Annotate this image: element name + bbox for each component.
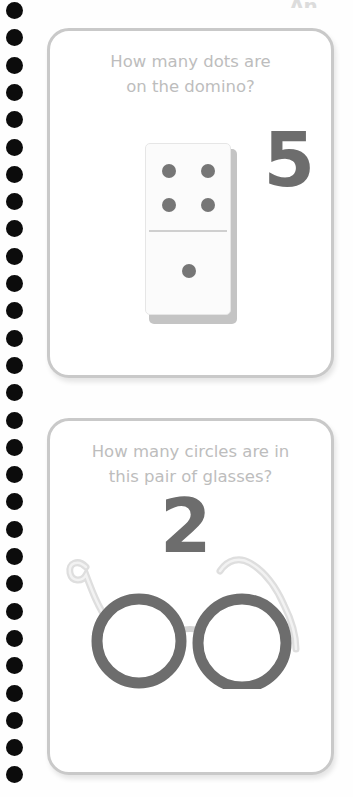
- binding-hole: [6, 575, 23, 592]
- binding-hole: [6, 220, 23, 237]
- binding-hole: [6, 521, 23, 538]
- glasses-lens-left: [97, 599, 181, 683]
- domino-pip: [182, 264, 196, 278]
- binding-hole: [6, 466, 23, 483]
- domino-pip: [162, 164, 176, 178]
- binding-hole: [6, 275, 23, 292]
- worksheet-page: An How many dots are on the domino? 5 Ho…: [0, 0, 353, 797]
- binding-hole: [6, 330, 23, 347]
- binding-hole: [6, 2, 23, 19]
- question-text-domino: How many dots are on the domino?: [64, 49, 317, 99]
- binding-hole: [6, 493, 23, 510]
- top-edge-mark: An: [289, 0, 345, 8]
- binding-hole: [6, 111, 23, 128]
- question-line-1: How many circles are in: [64, 439, 317, 464]
- question-text-glasses: How many circles are in this pair of gla…: [64, 439, 317, 489]
- binding-hole: [6, 766, 23, 783]
- question-line-1: How many dots are: [64, 49, 317, 74]
- binding-hole: [6, 685, 23, 702]
- domino-pip: [201, 164, 215, 178]
- binding-hole: [6, 739, 23, 756]
- binding-hole: [6, 712, 23, 729]
- binding-hole: [6, 139, 23, 156]
- question-card-domino[interactable]: How many dots are on the domino? 5: [47, 28, 334, 378]
- domino-pip: [201, 198, 215, 212]
- spiral-binding: [0, 0, 34, 797]
- binding-hole: [6, 657, 23, 674]
- question-line-2: on the domino?: [64, 74, 317, 99]
- binding-hole: [6, 548, 23, 565]
- glasses-illustration: [47, 509, 334, 689]
- binding-hole: [6, 193, 23, 210]
- binding-hole: [6, 603, 23, 620]
- answer-value-domino: 5: [264, 123, 316, 197]
- binding-hole: [6, 166, 23, 183]
- binding-hole: [6, 29, 23, 46]
- binding-hole: [6, 357, 23, 374]
- domino-pip: [162, 198, 176, 212]
- binding-hole: [6, 439, 23, 456]
- binding-hole: [6, 630, 23, 647]
- binding-hole: [6, 412, 23, 429]
- binding-hole: [6, 302, 23, 319]
- domino-body: [145, 143, 231, 315]
- binding-hole: [6, 57, 23, 74]
- binding-hole: [6, 84, 23, 101]
- binding-hole: [6, 384, 23, 401]
- glasses-lens-right: [198, 599, 286, 687]
- domino-illustration: [145, 143, 235, 320]
- domino-divider-line: [149, 230, 227, 232]
- question-card-glasses[interactable]: How many circles are in this pair of gla…: [47, 418, 334, 775]
- binding-hole: [6, 248, 23, 265]
